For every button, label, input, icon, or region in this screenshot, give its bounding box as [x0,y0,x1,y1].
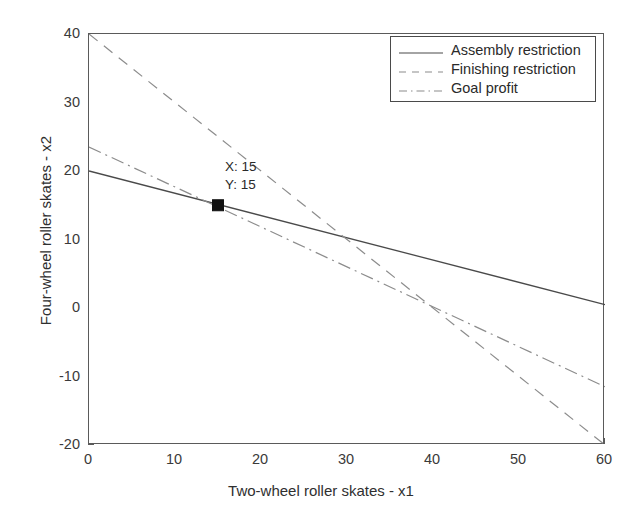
series-line-assembly-restriction [89,171,605,305]
legend-entry[interactable]: Finishing restriction [391,60,595,79]
x-tick-label: 20 [252,452,268,467]
chart-figure: 403020100-10-20 0102030405060 X: 15 Y: 1… [0,0,642,514]
series-line-goal-profit [89,147,605,387]
x-tick-label: 10 [166,452,182,467]
x-tick-label: 40 [424,452,440,467]
legend-entry[interactable]: Assembly restriction [391,41,595,60]
y-tick-label: -20 [34,437,80,452]
legend-label: Assembly restriction [451,43,581,58]
marker-optimal-point[interactable] [213,200,224,211]
legend-line-sample-icon [398,64,444,76]
legend-label: Finishing restriction [451,62,576,77]
legend-label: Goal profit [451,81,518,96]
data-tip-y-value: Y: 15 [225,176,257,194]
data-tip-annotation: X: 15 Y: 15 [225,158,257,193]
legend-line-sample-icon [398,83,444,95]
x-axis-title: Two-wheel roller skates - x1 [0,482,642,499]
legend-entry[interactable]: Goal profit [391,79,595,98]
x-tick-label: 50 [510,452,526,467]
x-tick-label: 60 [596,452,612,467]
x-tick-label: 30 [338,452,354,467]
y-axis-title: Four-wheel roller skates - x2 [37,31,54,431]
legend-line-sample-icon [398,45,444,57]
chart-legend[interactable]: Assembly restrictionFinishing restrictio… [390,36,596,102]
x-tick-label: 0 [84,452,92,467]
data-tip-x-value: X: 15 [225,158,257,176]
